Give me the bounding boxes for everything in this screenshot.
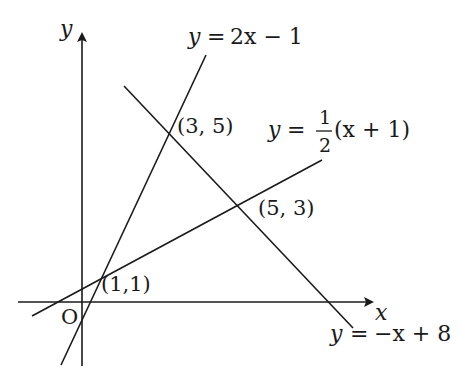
svg-text:y: y [329,321,343,346]
intersection-label-3-5: (3, 5) [177,114,233,138]
line-y-eq-half-x-plus-1 [32,160,322,316]
svg-text:y: y [267,117,281,142]
svg-text:(x + 1): (x + 1) [334,117,410,142]
svg-text:2: 2 [319,134,331,156]
equation-label-line3: y = −x + 8 [329,321,451,346]
svg-text:2x − 1: 2x − 1 [230,24,303,49]
svg-text:y: y [187,24,201,49]
svg-text:=: = [207,24,225,49]
intersection-label-5-3: (5, 3) [258,196,314,220]
origin-label: O [61,305,78,329]
coordinate-diagram: y x O y = 2x − 1 y = 1 2 (x + 1) y = −x … [0,0,462,369]
svg-text:=: = [350,321,368,346]
svg-text:−x + 8: −x + 8 [374,321,451,346]
intersection-label-1-1: (1,1) [101,272,151,296]
y-axis-label: y [59,16,73,41]
svg-text:1: 1 [319,106,331,128]
equation-label-line1: y = 2x − 1 [187,24,303,49]
equation-label-line2: y = 1 2 (x + 1) [267,106,410,156]
svg-text:=: = [287,117,305,142]
